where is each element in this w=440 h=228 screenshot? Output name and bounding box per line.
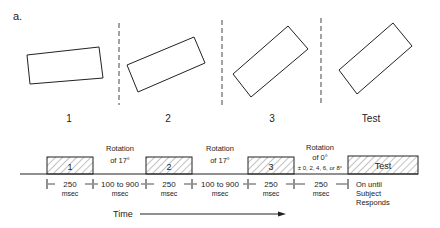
trial-sequence-diagram: a. 1 2 3 Test 1 2 3 Test Rotation of 17°… — [0, 0, 440, 228]
time-arrow-head-icon — [278, 212, 286, 217]
time-axis-label: Time — [113, 209, 133, 219]
frame-label-3: 3 — [269, 113, 275, 124]
stimulus-rectangle-2 — [127, 37, 205, 92]
duration-4-value: 100 to 900 — [201, 180, 239, 189]
duration-3-value: 250 — [162, 180, 176, 189]
duration-1-value: 250 — [63, 180, 77, 189]
frame-label-2: 2 — [165, 113, 171, 124]
rotation-label-3-line1: Rotation — [306, 143, 334, 152]
rotation-label-3-line3: ± 0, 2, 4, 6, or 8° — [298, 165, 343, 171]
timeline-box-label-2: 2 — [166, 162, 171, 172]
timeline-box-label-1: 1 — [67, 162, 72, 172]
rotation-label-1-line1: Rotation — [106, 144, 134, 153]
final-note-line2: Subject — [356, 189, 382, 198]
final-note-line1: On until — [356, 180, 382, 189]
timeline-box-label-3: 3 — [268, 162, 273, 172]
stimulus-rectangle-test — [339, 23, 412, 94]
frame-label-test: Test — [362, 113, 381, 124]
duration-6-unit: msec — [313, 190, 330, 197]
final-note-line3: Responds — [356, 198, 390, 207]
rotation-label-1-line2: of 17° — [110, 156, 130, 165]
rotation-label-2-line1: Rotation — [206, 144, 234, 153]
duration-6-value: 250 — [314, 180, 328, 189]
duration-4-unit: msec — [212, 190, 229, 197]
rotation-label-3-line2: of 0° — [312, 153, 328, 162]
panel-label: a. — [13, 10, 22, 22]
stimulus-rectangle-3 — [233, 26, 308, 97]
duration-3-unit: msec — [161, 190, 178, 197]
frame-label-1: 1 — [66, 113, 72, 124]
timeline-box-label-test: Test — [375, 161, 392, 171]
duration-5-unit: msec — [263, 190, 280, 197]
rotation-label-2-line2: of 17° — [210, 156, 230, 165]
duration-2-unit: msec — [112, 190, 129, 197]
duration-5-value: 250 — [264, 180, 278, 189]
stimulus-rectangle-1 — [27, 47, 103, 84]
duration-2-value: 100 to 900 — [101, 180, 139, 189]
duration-1-unit: msec — [62, 190, 79, 197]
